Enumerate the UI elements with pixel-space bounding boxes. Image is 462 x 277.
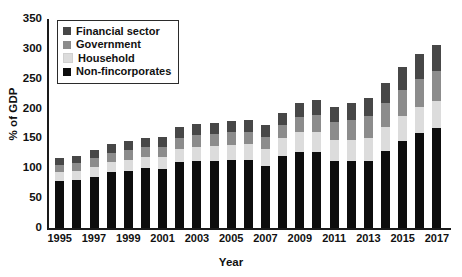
bar-segment: [381, 83, 390, 103]
bar-segment: [90, 150, 99, 158]
legend-swatch-icon: [63, 41, 71, 49]
bar-segment: [124, 160, 133, 171]
bar-1997: [90, 150, 99, 228]
bar-segment: [415, 54, 424, 79]
bar-segment: [432, 101, 441, 128]
bar-segment: [364, 161, 373, 228]
x-axis-line: [47, 228, 451, 230]
y-axis-label: % of GDP: [7, 79, 19, 149]
legend-swatch-icon: [63, 27, 71, 35]
y-axis-tick: 300: [2, 43, 42, 55]
bar-segment: [227, 145, 236, 160]
bar-2008: [278, 113, 287, 228]
legend-swatch-icon: [63, 68, 71, 76]
bar-segment: [175, 149, 184, 162]
bar-segment: [55, 165, 64, 172]
y-axis-tick: 100: [2, 163, 42, 175]
legend-label: Government: [76, 39, 141, 50]
bar-segment: [158, 137, 167, 147]
x-axis-tick: 2017: [417, 232, 457, 244]
bar-segment: [398, 116, 407, 140]
bar-segment: [381, 127, 390, 151]
bar-segment: [210, 134, 219, 146]
bar-segment: [364, 138, 373, 160]
bar-segment: [244, 160, 253, 228]
chart-legend: Financial sectorGovernmentHouseholdNon-f…: [57, 20, 179, 84]
bar-segment: [175, 127, 184, 138]
bar-segment: [244, 144, 253, 160]
legend-swatch-icon: [63, 53, 73, 63]
bar-segment: [415, 79, 424, 107]
stacked-bar-chart-figure: federal lending, private lending, debt a…: [0, 0, 462, 277]
bar-segment: [55, 181, 64, 228]
bar-segment: [244, 132, 253, 145]
bar-segment: [364, 98, 373, 117]
bar-segment: [295, 117, 304, 133]
bar-2000: [141, 138, 150, 228]
bar-segment: [124, 171, 133, 228]
bar-2003: [192, 124, 201, 229]
bar-2012: [347, 103, 356, 228]
bar-segment: [90, 167, 99, 177]
bar-segment: [72, 163, 81, 171]
bar-segment: [347, 161, 356, 228]
bar-segment: [107, 144, 116, 152]
bar-segment: [347, 103, 356, 120]
y-axis-tick: 50: [2, 192, 42, 204]
bar-segment: [330, 140, 339, 161]
bar-segment: [107, 153, 116, 162]
bar-segment: [192, 161, 201, 228]
bar-segment: [175, 138, 184, 149]
bar-segment: [278, 156, 287, 228]
bar-segment: [158, 147, 167, 157]
bar-segment: [90, 158, 99, 166]
y-axis-tick: 350: [2, 13, 42, 25]
bar-segment: [312, 100, 321, 115]
bar-segment: [415, 133, 424, 228]
bar-segment: [158, 157, 167, 169]
bar-2006: [244, 120, 253, 228]
bar-2010: [312, 100, 321, 228]
bar-1999: [124, 141, 133, 228]
bar-segment: [192, 135, 201, 147]
bar-segment: [210, 146, 219, 160]
bar-segment: [261, 149, 270, 166]
bar-segment: [347, 120, 356, 140]
bar-2015: [398, 67, 407, 228]
bar-segment: [55, 158, 64, 165]
legend-label: Household: [78, 53, 135, 64]
bar-segment: [192, 147, 201, 161]
bar-segment: [381, 103, 390, 127]
x-axis-label: Year: [0, 256, 462, 268]
legend-item: Non-fincorporates: [63, 65, 171, 78]
bar-segment: [175, 162, 184, 228]
bar-2016: [415, 54, 424, 228]
bar-2002: [175, 127, 184, 228]
bar-segment: [398, 90, 407, 116]
bar-segment: [312, 132, 321, 152]
bar-2009: [295, 103, 304, 228]
bar-segment: [192, 124, 201, 135]
bar-segment: [278, 138, 287, 156]
y-axis-tick: 0: [2, 222, 42, 234]
bar-1995: [55, 158, 64, 228]
bar-segment: [107, 172, 116, 228]
bar-segment: [124, 150, 133, 160]
bar-1998: [107, 144, 116, 228]
bar-segment: [141, 147, 150, 157]
bar-segment: [312, 152, 321, 228]
bar-segment: [330, 122, 339, 140]
bar-segment: [55, 172, 64, 182]
bar-segment: [227, 132, 236, 145]
bar-2004: [210, 123, 219, 228]
bar-segment: [278, 113, 287, 126]
bar-2001: [158, 137, 167, 228]
bar-segment: [210, 161, 219, 228]
bar-2013: [364, 98, 373, 228]
bar-segment: [295, 152, 304, 228]
bar-segment: [295, 103, 304, 117]
bar-segment: [141, 168, 150, 228]
bar-segment: [72, 156, 81, 163]
legend-item: Household: [63, 52, 171, 65]
bar-segment: [398, 67, 407, 90]
